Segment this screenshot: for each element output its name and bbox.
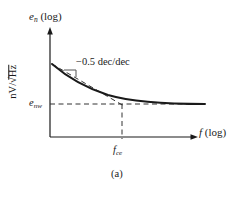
- figure-caption: (a): [111, 169, 123, 180]
- x-axis-label: f (log): [199, 127, 226, 138]
- flicker-asymptote-line: [52, 64, 124, 106]
- units-radicand: Hz: [7, 65, 18, 77]
- y-axis-scale-note: (log): [40, 10, 61, 22]
- y-axis-arrowhead-icon: [47, 27, 53, 35]
- noise-floor-subscript: nw: [34, 102, 42, 110]
- x-axis-arrowhead-icon: [191, 134, 199, 140]
- slope-annotation-label: −0.5 dec/dec: [76, 57, 130, 68]
- units-prefix: nV/: [7, 83, 18, 99]
- corner-frequency-label: fce: [113, 145, 122, 157]
- noise-floor-label: enw: [29, 98, 42, 110]
- y-axis-units-label: nV/√Hz: [7, 51, 19, 113]
- sqrt-group: √Hz: [7, 65, 19, 83]
- x-axis-scale-note: (log): [205, 126, 226, 138]
- corner-frequency-subscript: ce: [116, 149, 122, 157]
- y-axis-subscript: n: [34, 15, 38, 24]
- axis-lines: [47, 27, 198, 140]
- y-axis-label: en (log): [29, 11, 62, 23]
- x-axis-symbol: f: [199, 126, 202, 138]
